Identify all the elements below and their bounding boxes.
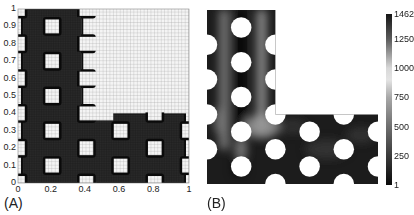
y-tick-label: 0.2 [3, 143, 16, 152]
colorbar-tick-label: 1 [394, 181, 399, 190]
colorbar [386, 14, 392, 185]
panel-label-b: (B) [207, 196, 226, 210]
hole [299, 156, 320, 177]
hole [45, 19, 59, 33]
y-tick-label: 1 [11, 4, 16, 13]
hole [114, 159, 128, 173]
material-region [91, 114, 184, 182]
hole [148, 141, 162, 155]
x-tick-label: 0.8 [147, 185, 160, 194]
hole [265, 104, 286, 125]
y-tick-label: 0.6 [3, 74, 16, 83]
colorbar-tick-label: 1000 [394, 64, 414, 73]
y-tick-label: 0.3 [3, 126, 16, 135]
x-tick-label: 0.6 [113, 185, 126, 194]
hole [231, 156, 252, 177]
panel-a-mesh-plot: 00.10.20.30.40.50.60.70.80.91 00.20.40.6… [0, 0, 200, 215]
colorbar-tick-label: 250 [394, 152, 409, 161]
hole [231, 17, 252, 38]
hole [368, 122, 389, 143]
hole [299, 122, 320, 143]
hole [114, 124, 128, 138]
hole [368, 156, 389, 177]
hole [45, 159, 59, 173]
hole [265, 35, 286, 56]
y-tick-label: 0.8 [3, 39, 16, 48]
x-tick-label: 0.2 [44, 185, 57, 194]
panel-b-field-plot: 1462125010007505002501 (B) [200, 0, 414, 215]
mesh-plot-area [0, 0, 200, 190]
hole [45, 124, 59, 138]
y-tick-label: 0.1 [3, 161, 16, 170]
x-tick-label: 1 [186, 185, 191, 194]
colorbar-tick-label: 750 [394, 93, 409, 102]
hole [334, 139, 355, 160]
y-tick-label: 0.4 [3, 108, 16, 117]
y-tick-label: 0.7 [3, 56, 16, 65]
hole [334, 104, 355, 125]
colorbar-tick-label: 1462 [394, 10, 414, 19]
hole [80, 141, 94, 155]
hole [265, 139, 286, 160]
hole [231, 52, 252, 73]
x-tick-label: 0.4 [79, 185, 92, 194]
y-tick-label: 0.9 [3, 21, 16, 30]
field-plot-area [200, 0, 414, 190]
x-tick-label: 0 [15, 185, 20, 194]
colorbar-tick-label: 1250 [394, 35, 414, 44]
hole [45, 54, 59, 68]
hole [45, 89, 59, 103]
hole [231, 122, 252, 143]
colorbar-tick-label: 500 [394, 123, 409, 132]
hole [231, 87, 252, 108]
hole [265, 69, 286, 90]
y-tick-label: 0.5 [3, 91, 16, 100]
panel-label-a: (A) [4, 196, 23, 210]
